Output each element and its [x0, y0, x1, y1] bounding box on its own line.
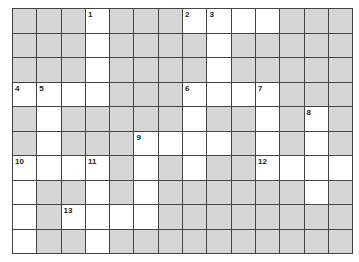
clue-number: 9	[136, 133, 140, 142]
blocked-cell	[86, 107, 110, 132]
crossword-cell[interactable]	[86, 34, 110, 59]
blocked-cell	[13, 107, 37, 132]
crossword-cell[interactable]: 13	[62, 205, 86, 230]
blocked-cell	[305, 230, 329, 255]
blocked-cell	[62, 9, 86, 34]
blocked-cell	[86, 132, 110, 157]
crossword-cell[interactable]	[256, 132, 280, 157]
crossword-cell[interactable]	[86, 83, 110, 108]
crossword-cell[interactable]	[159, 132, 183, 157]
crossword-cell[interactable]	[37, 156, 61, 181]
crossword-cell[interactable]	[134, 181, 158, 206]
blocked-cell	[110, 132, 134, 157]
clue-number: 13	[64, 206, 73, 215]
blocked-cell	[159, 34, 183, 59]
crossword-cell[interactable]	[256, 9, 280, 34]
blocked-cell	[329, 34, 353, 59]
crossword-cell[interactable]	[86, 230, 110, 255]
crossword-cell[interactable]: 9	[134, 132, 158, 157]
blocked-cell	[134, 58, 158, 83]
crossword-cell[interactable]	[86, 58, 110, 83]
blocked-cell	[280, 181, 304, 206]
blocked-cell	[37, 34, 61, 59]
crossword-cell[interactable]	[256, 107, 280, 132]
crossword-cell[interactable]	[86, 205, 110, 230]
crossword-cell[interactable]: 8	[305, 107, 329, 132]
crossword-cell[interactable]	[62, 156, 86, 181]
crossword-cell[interactable]: 5	[37, 83, 61, 108]
clue-number: 5	[39, 84, 43, 93]
crossword-cell[interactable]: 11	[86, 156, 110, 181]
blocked-cell	[159, 181, 183, 206]
blocked-cell	[110, 107, 134, 132]
blocked-cell	[62, 107, 86, 132]
crossword-cell[interactable]	[13, 205, 37, 230]
blocked-cell	[305, 34, 329, 59]
blocked-cell	[134, 83, 158, 108]
blocked-cell	[256, 230, 280, 255]
blocked-cell	[305, 9, 329, 34]
crossword-cell[interactable]	[305, 156, 329, 181]
blocked-cell	[159, 156, 183, 181]
crossword-cell[interactable]	[183, 156, 207, 181]
blocked-cell	[110, 9, 134, 34]
blocked-cell	[232, 230, 256, 255]
crossword-cell[interactable]	[280, 156, 304, 181]
blocked-cell	[329, 230, 353, 255]
blocked-cell	[207, 230, 231, 255]
blocked-cell	[62, 58, 86, 83]
crossword-cell[interactable]	[232, 83, 256, 108]
crossword-cell[interactable]	[37, 107, 61, 132]
blocked-cell	[134, 34, 158, 59]
blocked-cell	[37, 181, 61, 206]
blocked-cell	[13, 58, 37, 83]
crossword-cell[interactable]: 1	[86, 9, 110, 34]
blocked-cell	[305, 83, 329, 108]
crossword-cell[interactable]	[86, 181, 110, 206]
crossword-cell[interactable]	[329, 156, 353, 181]
blocked-cell	[232, 34, 256, 59]
crossword-cell[interactable]	[37, 132, 61, 157]
blocked-cell	[280, 205, 304, 230]
blocked-cell	[207, 181, 231, 206]
crossword-cell[interactable]	[207, 58, 231, 83]
blocked-cell	[280, 107, 304, 132]
blocked-cell	[183, 34, 207, 59]
crossword-cell[interactable]: 2	[183, 9, 207, 34]
crossword-cell[interactable]	[232, 9, 256, 34]
blocked-cell	[183, 58, 207, 83]
crossword-cell[interactable]	[305, 132, 329, 157]
crossword-cell[interactable]: 12	[256, 156, 280, 181]
crossword-cell[interactable]	[13, 230, 37, 255]
crossword-cell[interactable]: 4	[13, 83, 37, 108]
crossword-cell[interactable]	[110, 205, 134, 230]
crossword-cell[interactable]	[134, 156, 158, 181]
crossword-cell[interactable]: 3	[207, 9, 231, 34]
crossword-cell[interactable]	[183, 132, 207, 157]
crossword-cell[interactable]	[207, 132, 231, 157]
crossword-cell[interactable]	[134, 205, 158, 230]
clue-number: 2	[185, 10, 189, 19]
crossword-cell[interactable]	[183, 107, 207, 132]
blocked-cell	[13, 9, 37, 34]
crossword-cell[interactable]	[207, 83, 231, 108]
crossword-cell[interactable]: 7	[256, 83, 280, 108]
blocked-cell	[256, 181, 280, 206]
blocked-cell	[280, 83, 304, 108]
crossword-cell[interactable]	[13, 181, 37, 206]
blocked-cell	[329, 107, 353, 132]
crossword-cell[interactable]	[305, 181, 329, 206]
crossword-cell[interactable]: 6	[183, 83, 207, 108]
blocked-cell	[13, 34, 37, 59]
blocked-cell	[232, 205, 256, 230]
crossword-cell[interactable]	[207, 34, 231, 59]
blocked-cell	[183, 181, 207, 206]
blocked-cell	[232, 58, 256, 83]
crossword-cell[interactable]: 10	[13, 156, 37, 181]
crossword-cell[interactable]	[62, 83, 86, 108]
blocked-cell	[329, 205, 353, 230]
blocked-cell	[183, 205, 207, 230]
blocked-cell	[37, 58, 61, 83]
blocked-cell	[280, 132, 304, 157]
blocked-cell	[62, 132, 86, 157]
